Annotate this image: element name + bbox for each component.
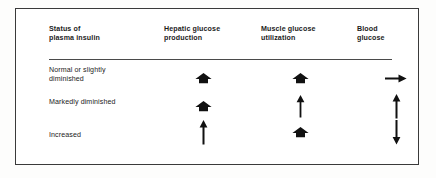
thick-up-arrow-icon [283,119,317,146]
cell-muscle-glucose-utilization [261,119,353,146]
table-row: Normal or slightly diminished [49,65,392,93]
thin-up-arrow-icon [186,119,220,146]
column-header-status-of-plasma-insulin: Status of plasma insulin [49,25,149,44]
table-body: Normal or slightly diminished [49,65,392,147]
cell-muscle-glucose-utilization [261,65,353,92]
thick-up-arrow-icon [186,93,220,120]
cell-hepatic-glucose-production [164,119,256,146]
cell-hepatic-glucose-production [164,65,256,92]
figure-page: Status of plasma insulin Hepatic glucose… [0,0,436,178]
cell-blood-glucose [353,65,436,92]
table-row: Markedly diminished [49,93,392,119]
thin-down-arrow-icon [379,119,413,146]
row-label-increased: Increased [49,131,157,140]
table-header-row: Status of plasma insulin Hepatic glucose… [49,25,392,55]
thick-up-arrow-icon [283,65,317,92]
cell-blood-glucose [353,93,436,120]
table-row: Increased [49,119,392,147]
thin-up-arrow-icon [379,93,413,120]
thin-up-arrow-icon [283,93,317,120]
cell-blood-glucose [353,119,436,146]
column-header-hepatic-glucose-production: Hepatic glucose production [164,25,256,44]
header-divider-rule [49,59,392,60]
row-label-markedly-diminished: Markedly diminished [49,98,157,107]
column-header-blood-glucose: Blood glucose [357,25,417,44]
cell-muscle-glucose-utilization [261,93,353,120]
row-label-normal-or-slightly-diminished: Normal or slightly diminished [49,66,157,85]
figure-border-frame: Status of plasma insulin Hepatic glucose… [15,8,419,165]
plasma-insulin-status-table: Status of plasma insulin Hepatic glucose… [49,25,392,55]
thick-up-arrow-icon [186,65,220,92]
cell-hepatic-glucose-production [164,93,256,120]
column-header-muscle-glucose-utilization: Muscle glucose utilization [261,25,353,44]
right-arrow-icon [379,65,413,92]
